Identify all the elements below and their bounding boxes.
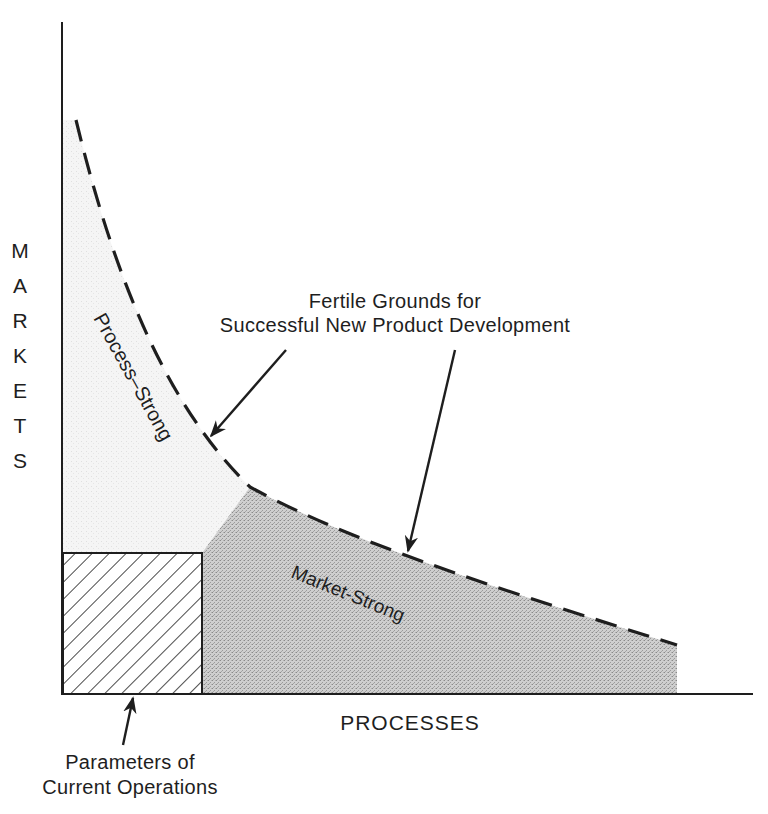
fertile-grounds-line2: Successful New Product Development	[170, 313, 620, 337]
x-axis-label: PROCESSES	[320, 711, 500, 735]
diagram-canvas: Process–Strong Market-Strong	[0, 0, 768, 814]
current-operations-line1: Parameters of	[10, 750, 250, 775]
market-strong-region	[202, 487, 677, 694]
arrow-to-current-operations-icon	[123, 698, 133, 745]
y-axis-letter: S	[10, 447, 30, 474]
y-axis-letter: R	[10, 307, 30, 334]
arrow-to-process-frontier-icon	[211, 350, 286, 436]
y-axis-letter: A	[10, 272, 30, 299]
arrow-to-market-frontier-icon	[408, 350, 455, 551]
current-operations-box	[63, 553, 202, 694]
y-axis-letter: T	[10, 412, 30, 439]
current-operations-annotation: Parameters of Current Operations	[10, 750, 250, 800]
y-axis-letter: K	[10, 342, 30, 369]
fertile-grounds-line1: Fertile Grounds for	[170, 289, 620, 313]
fertile-grounds-annotation: Fertile Grounds for Successful New Produ…	[170, 289, 620, 337]
current-operations-line2: Current Operations	[10, 775, 250, 800]
y-axis-letter: E	[10, 377, 30, 404]
y-axis-letter: M	[10, 237, 30, 264]
